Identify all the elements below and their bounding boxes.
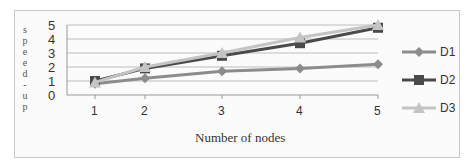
series-line-d2 (95, 28, 378, 81)
legend-label-d2: D2 (440, 73, 455, 87)
x-tick-label: 2 (141, 104, 148, 118)
y-tick-label: 1 (48, 74, 55, 89)
legend-label-d3: D3 (440, 101, 455, 115)
legend-item-d2: D2 (402, 66, 455, 94)
y-tick-label: 3 (48, 46, 55, 61)
diamond-marker-icon (140, 73, 150, 83)
y-tick-label: 0 (48, 88, 55, 103)
x-tick-label: 4 (296, 104, 303, 118)
y-tick-label: 4 (48, 32, 55, 47)
y-tick-label: 2 (48, 60, 55, 75)
diamond-marker-icon (217, 66, 227, 76)
legend-item-d1: D1 (402, 38, 455, 66)
x-tick-label: 5 (374, 104, 381, 118)
square-marker-icon (402, 74, 436, 86)
legend: D1 D2 D3 (402, 38, 455, 122)
x-axis-title: Number of nodes (195, 130, 285, 146)
legend-label-d1: D1 (440, 45, 455, 59)
triangle-marker-icon (402, 102, 436, 114)
diamond-marker-icon (295, 63, 305, 73)
diamond-marker-icon (402, 46, 436, 58)
y-tick-label: 5 (48, 18, 55, 33)
legend-item-d3: D3 (402, 94, 455, 122)
x-tick-label: 1 (91, 104, 98, 118)
x-tick-label: 3 (218, 104, 225, 118)
diamond-marker-icon (373, 59, 383, 69)
